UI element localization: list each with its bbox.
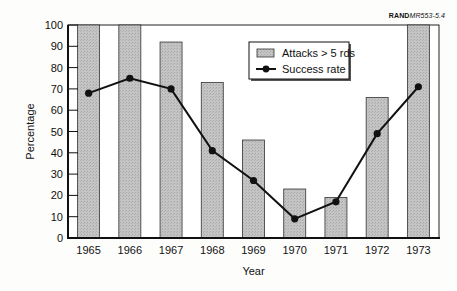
x-tick-label: 1968	[200, 244, 224, 256]
y-tick-label: 50	[51, 126, 63, 138]
success-rate-marker	[209, 147, 216, 154]
x-tick-label: 1966	[118, 244, 142, 256]
y-tick-label: 100	[45, 19, 63, 31]
bar-1968	[201, 83, 223, 238]
x-tick-label: 1965	[76, 244, 100, 256]
success-rate-marker	[126, 75, 133, 82]
y-tick-label: 90	[51, 40, 63, 52]
y-tick-label: 30	[51, 168, 63, 180]
bar-1965	[78, 25, 100, 238]
y-tick-label: 0	[57, 232, 63, 244]
y-tick-label: 70	[51, 83, 63, 95]
legend-marker-swatch	[263, 66, 270, 73]
y-axis-title: Percentage	[24, 103, 36, 159]
bar-1967	[160, 42, 182, 238]
success-rate-marker	[374, 130, 381, 137]
success-rate-marker	[250, 177, 257, 184]
bar-1972	[366, 97, 388, 238]
success-rate-marker	[332, 198, 339, 205]
success-rate-marker	[85, 90, 92, 97]
legend-label-success: Success rate	[282, 63, 346, 75]
plot-area: 0102030405060708090100196519661967196819…	[24, 19, 440, 277]
success-rate-marker	[291, 215, 298, 222]
y-tick-label: 80	[51, 62, 63, 74]
success-rate-marker	[167, 85, 174, 92]
legend-label-attacks: Attacks > 5 rds	[282, 47, 356, 59]
y-tick-label: 40	[51, 147, 63, 159]
x-tick-label: 1972	[365, 244, 389, 256]
success-rate-marker	[415, 83, 422, 90]
chart: 0102030405060708090100196519661967196819…	[0, 0, 457, 291]
x-tick-label: 1970	[282, 244, 306, 256]
bar-1973	[407, 25, 429, 238]
bar-1970	[284, 189, 306, 238]
bar-1966	[119, 25, 141, 238]
x-tick-label: 1969	[241, 244, 265, 256]
y-tick-label: 20	[51, 189, 63, 201]
x-tick-label: 1973	[406, 244, 430, 256]
x-axis-title: Year	[242, 265, 265, 277]
y-tick-label: 10	[51, 211, 63, 223]
legend-bar-swatch	[257, 49, 274, 57]
x-tick-label: 1971	[324, 244, 348, 256]
x-tick-label: 1967	[159, 244, 183, 256]
y-tick-label: 60	[51, 104, 63, 116]
